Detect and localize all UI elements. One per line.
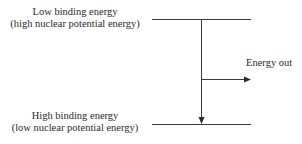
down-arrow-icon	[199, 117, 205, 124]
energy-level-diagram	[0, 0, 302, 144]
right-arrow-icon	[244, 77, 251, 83]
